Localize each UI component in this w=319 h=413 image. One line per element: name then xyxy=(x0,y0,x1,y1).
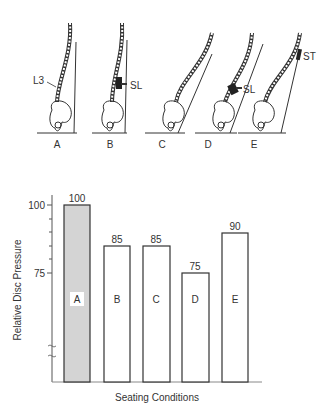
panel-e xyxy=(238,33,302,133)
value-label-b: 85 xyxy=(111,234,123,245)
category-label-c: C xyxy=(152,294,159,305)
panel-label-c: C xyxy=(158,139,165,150)
panel-label-d: D xyxy=(204,139,211,150)
ytick-100: 100 xyxy=(28,200,45,211)
panel-label-b: B xyxy=(107,139,114,150)
bar-d xyxy=(182,273,209,382)
value-label-a: 100 xyxy=(69,193,86,204)
category-label-a: A xyxy=(74,294,81,305)
x-axis-label: Seating Conditions xyxy=(115,392,199,403)
ytick-75: 75 xyxy=(34,268,46,279)
bar-chart: 100 75 Relative Disc Pressure Seating Co… xyxy=(12,193,262,403)
panel-label-a: A xyxy=(54,139,61,150)
value-label-c: 85 xyxy=(150,234,162,245)
category-label-d: D xyxy=(191,294,198,305)
panel-label-e: E xyxy=(251,139,258,150)
bar-e xyxy=(222,233,248,382)
value-label-e: 90 xyxy=(229,221,241,232)
annotation-sl-b: SL xyxy=(130,80,143,91)
value-label-d: 75 xyxy=(189,261,201,272)
panel-b xyxy=(92,23,127,133)
figure: L3 SL SL ST A B C D E 100 75 Relative xyxy=(0,0,319,413)
y-ticks xyxy=(47,205,52,273)
category-label-e: E xyxy=(232,294,239,305)
category-label-b: B xyxy=(114,294,121,305)
annotation-st: ST xyxy=(303,51,316,62)
annotation-sl-d: SL xyxy=(243,84,256,95)
y-axis-label: Relative Disc Pressure xyxy=(12,239,23,341)
posture-illustration xyxy=(37,23,302,133)
bar-b xyxy=(104,246,130,382)
panel-c xyxy=(145,33,212,133)
bar-c xyxy=(143,246,170,382)
annotation-l3: L3 xyxy=(33,75,45,86)
